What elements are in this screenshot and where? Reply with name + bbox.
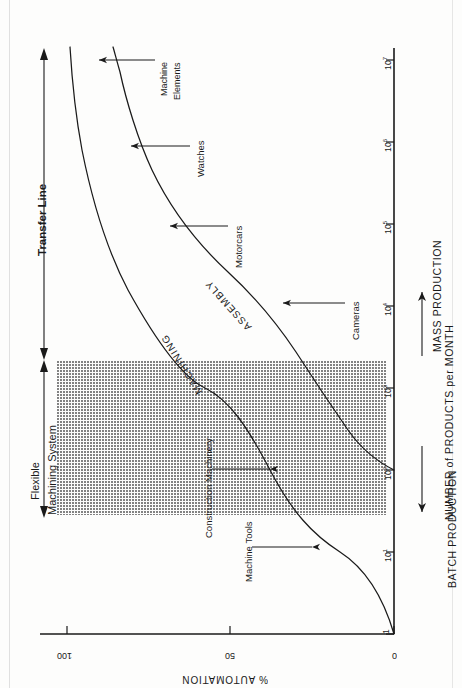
x-tick-10e1: 101 (382, 549, 393, 562)
machine-elements-label-line2: Elements (173, 62, 182, 100)
mass-production-label: MASS PRODUCTION (432, 240, 443, 352)
transfer-line-label: Transfer Line (36, 184, 48, 256)
x-tick-10e4: 104 (382, 303, 393, 316)
y-tick-100: 100 (57, 651, 72, 660)
y-tick-50: 50 (225, 651, 235, 660)
machining-curve (70, 47, 394, 634)
machine-tools-label: Machine Tools (244, 521, 254, 582)
x-tick-10e7: 107 (382, 57, 393, 70)
y-axis (40, 626, 394, 634)
y-tick-0: 0 (392, 651, 397, 660)
chart-vector-layer (0, 0, 462, 688)
watches-label: Watches (196, 140, 206, 177)
construction-machinery-label: Construction Machinery (204, 438, 214, 538)
x-tick-1: 1 (382, 629, 391, 634)
x-tick-10e5: 105 (382, 221, 393, 234)
x-tick-10e2: 102 (382, 467, 393, 480)
figure-page: 1 101 102 103 104 105 106 107 NUMBER of … (0, 0, 462, 688)
machine-elements-label-line1: Machine (160, 62, 169, 96)
machining-system-label: Machining System (47, 425, 59, 515)
batch-production-label: BATCH PRODUCTION (447, 470, 458, 588)
motorcars-label: Motorcars (234, 226, 244, 268)
x-tick-10e6: 106 (382, 139, 393, 152)
x-tick-10e3: 103 (382, 385, 393, 398)
y-axis-title: % AUTOMATION (182, 674, 268, 685)
cameras-label: Cameras (351, 301, 361, 340)
assembly-curve (113, 47, 394, 470)
x-axis (386, 48, 394, 634)
flexible-label: Flexible (30, 462, 42, 500)
